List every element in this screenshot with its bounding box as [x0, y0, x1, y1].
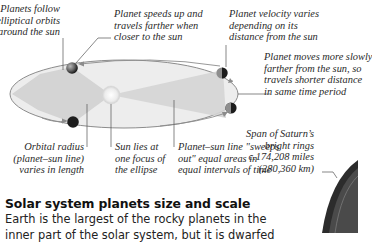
- sun-icon: [102, 86, 120, 104]
- saturn-partial-icon: [322, 160, 358, 233]
- body-line: inner part of the solar system, but it i…: [5, 227, 305, 243]
- label-elliptical-orbits: Planets follow elliptical orbits around …: [0, 3, 60, 38]
- label-sun-focus: Sun lies at one focus of the ellipse: [115, 141, 165, 176]
- planet-top-right-icon: [216, 67, 227, 78]
- section-body: Earth is the largest of the rocky planet…: [5, 211, 305, 243]
- planet-bottom-left-icon: [67, 116, 79, 128]
- label-saturn-rings: Span of Saturn’s bright rings c.174,208 …: [246, 128, 314, 174]
- label-orbital-radius: Orbital radius (planet–sun line) varies …: [13, 141, 84, 176]
- section-heading: Solar system planets size and scale: [5, 196, 250, 211]
- label-velocity-varies: Planet velocity varies depending on its …: [229, 8, 319, 43]
- planet-top-left-icon: [66, 62, 78, 74]
- label-moves-slowly: Planet moves more slowly farther from th…: [264, 51, 372, 97]
- body-line: Earth is the largest of the rocky planet…: [5, 211, 305, 227]
- planet-bottom-right-icon: [225, 102, 236, 113]
- label-speeds-up: Planet speeds up and travels farther whe…: [114, 8, 203, 43]
